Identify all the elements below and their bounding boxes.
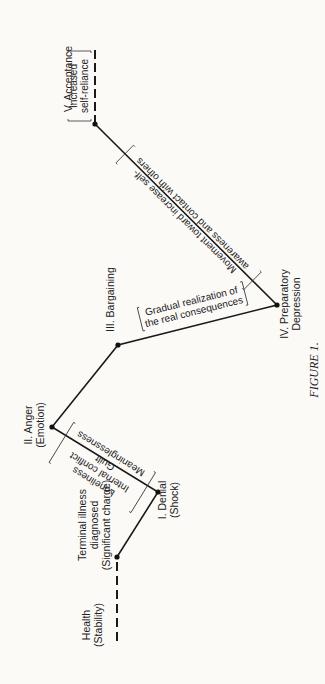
grief-stages-diagram: Health (Stability) Terminal illness diag… xyxy=(0,0,325,684)
bargaining-depression-annotation: Gradual realization of the real conseque… xyxy=(137,282,248,331)
anger-node xyxy=(49,424,54,429)
acceptance-node xyxy=(92,121,97,126)
svg-text:Increased: Increased xyxy=(68,64,79,108)
health-label: Health (Stability) xyxy=(80,603,104,647)
depression-label: IV. Preparatory Depression xyxy=(278,268,302,338)
terminal-node xyxy=(114,554,119,559)
bargaining-node xyxy=(115,342,120,347)
svg-text:Depression: Depression xyxy=(290,277,302,330)
denial-label: I. Denial (Shock) xyxy=(156,481,180,520)
svg-text:Terminal illness: Terminal illness xyxy=(76,489,88,561)
svg-text:II. Anger: II. Anger xyxy=(22,405,34,445)
anger-label: II. Anger (Emotion) xyxy=(22,402,46,448)
svg-text:(Stability): (Stability) xyxy=(92,603,104,647)
figure-caption: FIGURE 1. xyxy=(307,342,321,398)
svg-text:self-reliance: self-reliance xyxy=(79,59,90,113)
svg-text:FIGURE 1.: FIGURE 1. xyxy=(307,342,321,398)
svg-text:Health: Health xyxy=(80,610,92,641)
svg-text:Movement toward increase self-: Movement toward increase self- xyxy=(130,168,238,276)
svg-text:I. Denial: I. Denial xyxy=(156,481,168,520)
svg-text:(Emotion): (Emotion) xyxy=(34,402,46,448)
svg-text:awareness and contact with oth: awareness and contact with others xyxy=(134,156,251,272)
svg-text:IV. Preparatory: IV. Preparatory xyxy=(278,268,290,338)
svg-text:diagnosed: diagnosed xyxy=(88,501,100,550)
svg-text:(Shock): (Shock) xyxy=(168,482,180,518)
bargaining-label: III. Bargaining xyxy=(104,267,116,332)
depression-acceptance-annotation: Movement toward increase self- awareness… xyxy=(116,145,261,290)
svg-text:III. Bargaining: III. Bargaining xyxy=(104,267,116,332)
